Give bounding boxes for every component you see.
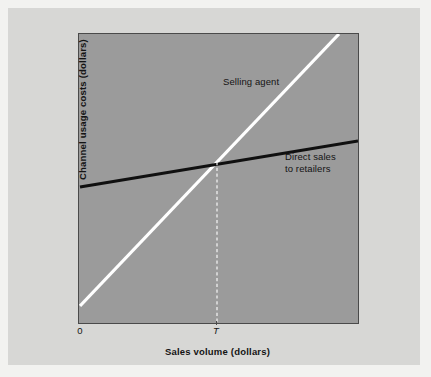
chart-canvas xyxy=(79,34,358,323)
figure-panel: Selling agent Direct sales to retailers … xyxy=(8,8,420,365)
plot-area: Selling agent Direct sales to retailers xyxy=(78,33,359,324)
x-axis-title: Sales volume (dollars) xyxy=(78,346,357,357)
series-label-direct-sales: Direct sales to retailers xyxy=(285,151,336,174)
y-axis-title: Channel usage costs (dollars) xyxy=(77,30,88,190)
series-label-selling-agent: Selling agent xyxy=(223,76,279,88)
x-tick-label-t: T xyxy=(206,325,226,336)
x-tick-label-zero: 0 xyxy=(70,325,90,336)
